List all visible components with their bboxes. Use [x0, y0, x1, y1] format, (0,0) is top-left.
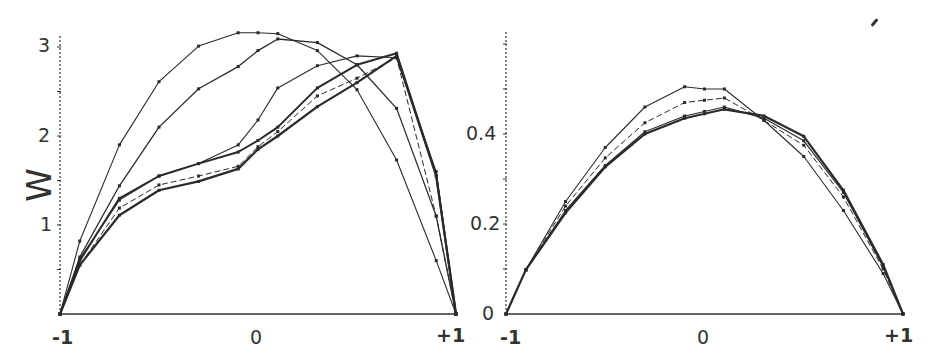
x-tick-0: 0	[250, 328, 262, 347]
data-point-marker	[683, 117, 686, 120]
data-point-marker	[257, 49, 260, 52]
data-point-marker	[237, 167, 240, 170]
data-point-marker	[882, 272, 885, 275]
data-point-marker	[118, 207, 121, 210]
data-point-marker	[395, 107, 398, 110]
data-point-marker	[643, 133, 646, 136]
data-point-marker	[276, 86, 279, 89]
data-point-marker	[604, 165, 607, 168]
data-point-marker	[356, 88, 359, 91]
data-point-marker	[237, 143, 240, 146]
data-point-marker	[842, 196, 845, 199]
data-point-marker	[683, 85, 686, 88]
data-point-marker	[78, 264, 81, 267]
data-point-marker	[395, 159, 398, 162]
y-tick-1: 1	[40, 215, 52, 234]
data-point-marker	[158, 189, 161, 192]
data-point-marker	[197, 180, 200, 183]
left-chart-plot	[0, 0, 470, 364]
data-point-marker	[257, 31, 260, 34]
data-point-marker	[643, 121, 646, 124]
data-point-marker	[643, 106, 646, 109]
data-point-marker	[435, 259, 438, 262]
data-point-marker	[158, 175, 161, 178]
data-point-marker	[118, 143, 121, 146]
data-point-marker	[723, 88, 726, 91]
data-point-marker	[316, 94, 319, 97]
data-point-marker	[257, 148, 260, 151]
data-point-marker	[763, 115, 766, 118]
data-point-marker	[356, 63, 359, 66]
data-point-marker	[604, 156, 607, 159]
data-point-marker	[316, 64, 319, 67]
data-point-marker	[197, 175, 200, 178]
data-point-marker	[118, 214, 121, 217]
data-point-marker	[316, 41, 319, 44]
right-chart-panel: 0.4 0.2 0 -1 0 +1	[460, 0, 931, 364]
data-point-marker	[902, 313, 905, 316]
data-point-marker	[59, 313, 62, 316]
data-point-marker	[356, 54, 359, 57]
data-point-marker	[683, 101, 686, 104]
series-line-D	[60, 53, 456, 314]
x-tick-minus-1: -1	[500, 328, 521, 347]
data-point-marker	[276, 126, 279, 129]
x-tick-0: 0	[697, 328, 709, 347]
data-point-marker	[524, 268, 527, 271]
y-tick-0: 0	[482, 304, 494, 323]
y-tick-3: 3	[38, 36, 50, 55]
data-point-marker	[197, 162, 200, 165]
y-tick-2: 2	[38, 126, 50, 145]
y-tick-0-4: 0.4	[466, 124, 496, 143]
data-point-marker	[802, 139, 805, 142]
data-point-marker	[276, 130, 279, 133]
data-point-marker	[802, 144, 805, 147]
data-point-marker	[882, 263, 885, 266]
data-point-marker	[842, 209, 845, 212]
data-point-marker	[118, 197, 121, 200]
data-point-marker	[257, 118, 260, 121]
x-tick-minus-1: -1	[52, 328, 73, 347]
series-line-B	[60, 39, 456, 314]
data-point-marker	[276, 37, 279, 40]
series-line-A	[60, 33, 456, 314]
data-point-marker	[257, 139, 260, 142]
data-point-marker	[703, 99, 706, 102]
data-point-marker	[118, 184, 121, 187]
data-point-marker	[564, 211, 567, 214]
data-point-marker	[842, 189, 845, 192]
data-point-marker	[78, 240, 81, 243]
data-point-marker	[564, 200, 567, 203]
data-point-marker	[505, 313, 508, 316]
data-point-marker	[197, 45, 200, 48]
data-point-marker	[316, 49, 319, 52]
data-point-marker	[802, 155, 805, 158]
data-point-marker	[723, 108, 726, 111]
data-point-marker	[316, 86, 319, 89]
data-point-marker	[435, 215, 438, 218]
data-point-marker	[158, 80, 161, 83]
right-chart-plot	[460, 0, 931, 364]
data-point-marker	[703, 88, 706, 91]
data-point-marker	[435, 175, 438, 178]
data-point-marker	[723, 97, 726, 100]
data-point-marker	[158, 126, 161, 129]
data-point-marker	[316, 105, 319, 108]
data-point-marker	[564, 205, 567, 208]
data-point-marker	[237, 65, 240, 68]
left-chart-panel: W 3 2 1 -1 0 +1	[0, 0, 470, 364]
data-point-marker	[455, 313, 458, 316]
data-point-marker	[395, 52, 398, 55]
x-tick-plus-1: +1	[884, 326, 913, 345]
data-point-marker	[237, 151, 240, 154]
data-point-marker	[356, 81, 359, 84]
y-tick-0-2: 0.2	[470, 214, 500, 233]
data-point-marker	[395, 54, 398, 57]
data-point-marker	[356, 77, 359, 80]
y-axis-label-w: W	[22, 168, 56, 202]
data-point-marker	[197, 87, 200, 90]
data-point-marker	[703, 112, 706, 115]
data-point-marker	[802, 135, 805, 138]
data-point-marker	[604, 146, 607, 149]
data-point-marker	[237, 31, 240, 34]
